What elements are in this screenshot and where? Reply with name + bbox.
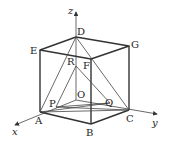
label-B: B	[86, 127, 93, 138]
label-C: C	[126, 113, 134, 124]
label-Q: Q	[105, 97, 113, 108]
label-G: G	[131, 39, 139, 50]
label-F: F	[83, 60, 90, 71]
edge-BC	[91, 110, 129, 124]
edge-AB	[40, 112, 91, 124]
labels: z x y D E G F R O P Q A B C	[12, 5, 158, 138]
label-D: D	[77, 26, 85, 37]
top-face	[40, 37, 129, 59]
label-A: A	[34, 115, 43, 126]
label-O: O	[77, 89, 85, 100]
label-E: E	[30, 45, 37, 56]
label-z: z	[67, 5, 74, 16]
cube-diagram: z x y D E G F R O P Q A B C	[0, 0, 171, 143]
label-y: y	[151, 117, 158, 128]
label-x: x	[12, 126, 18, 137]
x-axis	[15, 100, 76, 125]
label-P: P	[49, 98, 56, 109]
label-R: R	[67, 56, 75, 67]
y-axis	[76, 100, 157, 114]
